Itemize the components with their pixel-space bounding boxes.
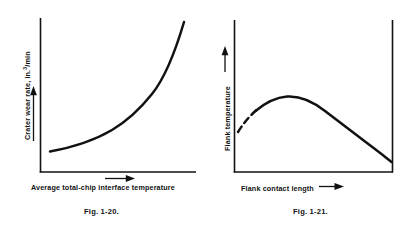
x-axis-label-flank-contact-length: Flank contact length (241, 183, 345, 192)
figure-fig-1-21: Flank temperature Flank contact length F… (207, 0, 413, 232)
data-curve-crater-wear-rate (50, 22, 184, 152)
x-axis-label-interface-temperature: Average total-chip interface temperature (31, 184, 175, 191)
y-axis-label-text-suffix: /min (23, 51, 32, 66)
plot-area-fig-1-21 (207, 0, 413, 232)
y-axis-label-text-prefix: Crater wear rate, in. (23, 69, 32, 139)
figure-caption-fig-1-20: Fig. 1-20. (84, 208, 119, 216)
x-axis-label-text: Flank contact length (241, 184, 314, 193)
figure-caption-fig-1-21: Fig. 1-21. (293, 208, 328, 216)
figure-sheet: Crater wear rate, in.3/min Average total… (0, 0, 413, 232)
x-axis-direction-arrow-icon (105, 175, 135, 182)
x-axis-direction-arrow-icon (319, 183, 345, 190)
figure-fig-1-20: Crater wear rate, in.3/min Average total… (0, 0, 206, 232)
data-curve-flank-temperature (256, 96, 392, 162)
y-axis-direction-arrow-icon (222, 46, 229, 72)
data-curve-dashed-lead-in (238, 110, 257, 133)
